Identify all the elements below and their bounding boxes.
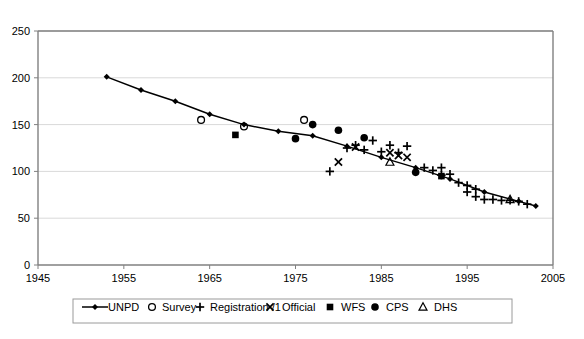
legend-label-official: Official: [282, 301, 315, 313]
datapoint-cps-0: [292, 135, 300, 143]
legend-label-unpd: UNPD: [108, 301, 139, 313]
legend-label-survey: Survey: [162, 301, 197, 313]
plot-area: [38, 31, 553, 265]
y-axis-ticks: 050100150200250: [12, 25, 38, 271]
legend-marker-wfs: [327, 304, 334, 311]
y-tick-label-200: 200: [12, 72, 30, 84]
datapoint-cps-3: [360, 134, 368, 142]
x-tick-label-1945: 1945: [26, 272, 50, 284]
x-tick-label-2005: 2005: [541, 272, 565, 284]
datapoint-cps-2: [335, 126, 343, 134]
legend-marker-diamond-unpd: [92, 304, 98, 310]
legend-item-dhs[interactable]: DHS: [419, 301, 457, 313]
x-tick-label-1975: 1975: [283, 272, 307, 284]
datapoint-cps-4: [412, 169, 420, 177]
legend-item-registration-1[interactable]: Registration /1: [196, 301, 281, 313]
x-tick-label-1985: 1985: [369, 272, 393, 284]
scatter-line-chart: 0501001502002501945195519651975198519952…: [0, 0, 584, 339]
legend-item-cps[interactable]: CPS: [371, 301, 408, 313]
legend-marker-survey: [149, 304, 156, 311]
legend-label-dhs: DHS: [434, 301, 457, 313]
y-tick-label-150: 150: [12, 119, 30, 131]
chart-container: 0501001502002501945195519651975198519952…: [0, 0, 584, 339]
x-tick-label-1995: 1995: [455, 272, 479, 284]
y-tick-label-250: 250: [12, 25, 30, 37]
y-tick-label-100: 100: [12, 165, 30, 177]
legend-item-unpd[interactable]: UNPD: [82, 301, 139, 313]
x-tick-label-1965: 1965: [197, 272, 221, 284]
legend-marker-dhs: [419, 303, 427, 310]
datapoint-wfs-1: [438, 173, 445, 180]
legend-item-wfs[interactable]: WFS: [327, 301, 366, 313]
legend-item-survey[interactable]: Survey: [149, 301, 197, 313]
y-tick-label-0: 0: [24, 259, 30, 271]
legend-marker-cps: [371, 303, 379, 311]
x-tick-label-1955: 1955: [112, 272, 136, 284]
datapoint-cps-1: [309, 121, 317, 129]
y-tick-label-50: 50: [18, 212, 30, 224]
legend-marker-registration-1: [196, 303, 204, 311]
x-axis-ticks: 1945195519651975198519952005: [26, 265, 565, 284]
chart-legend: UNPDSurveyRegistration /1OfficialWFSCPSD…: [73, 299, 512, 323]
legend-label-cps: CPS: [386, 301, 409, 313]
legend-label-wfs: WFS: [341, 301, 365, 313]
datapoint-wfs-0: [232, 132, 239, 139]
